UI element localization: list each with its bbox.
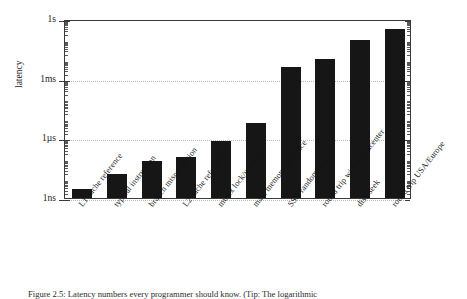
- figure-caption: Figure 2.5: Latency numbers every progra…: [28, 289, 452, 299]
- bar: [281, 67, 301, 198]
- x-axis-tick-labels: L1 cache referencetypical instructionbra…: [64, 199, 411, 281]
- bar: [385, 29, 405, 198]
- bar: [315, 59, 335, 198]
- y-tick-label: 1ms: [18, 74, 56, 84]
- figure-latency-chart: latency 1ns1µs1ms1s L1 cache referencety…: [0, 0, 467, 299]
- y-tick-label: 1µs: [18, 133, 56, 143]
- plot-area: [64, 20, 411, 199]
- y-tick-label: 1s: [18, 14, 56, 24]
- bar-series: [65, 21, 410, 198]
- y-tick-label: 1ns: [18, 193, 56, 203]
